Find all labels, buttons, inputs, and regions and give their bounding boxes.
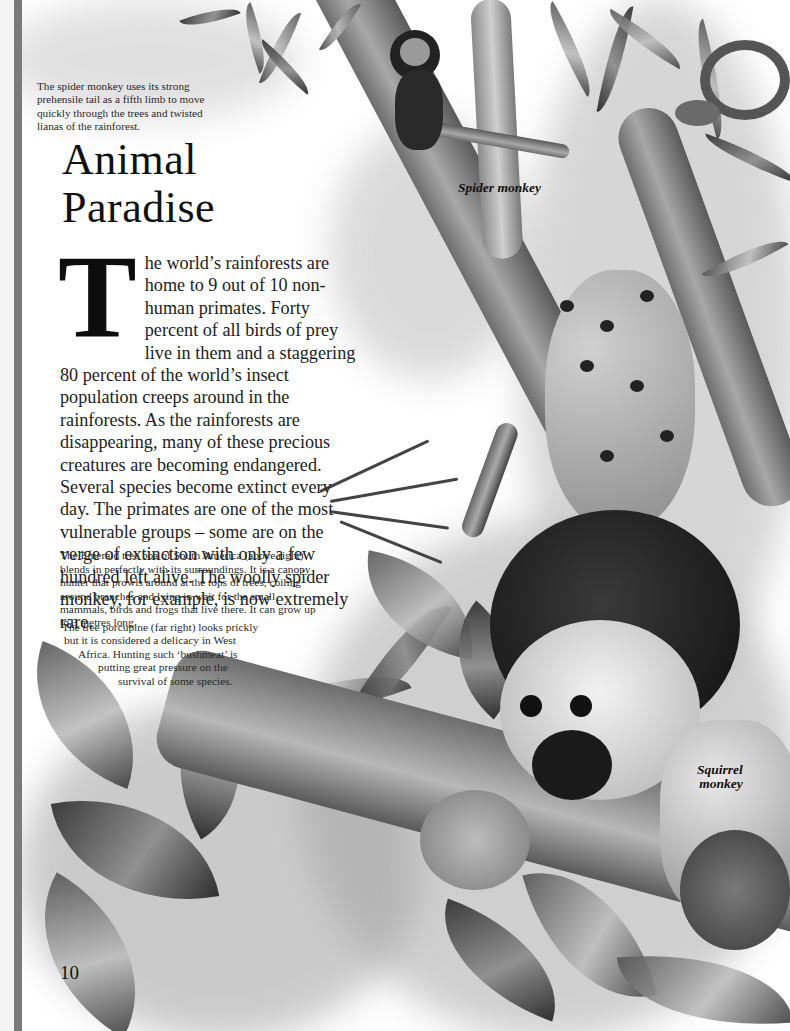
page-gutter — [0, 0, 14, 1031]
title-line-1: Animal — [62, 135, 197, 184]
squirrel-monkey-label: Squirrel monkey — [697, 763, 743, 791]
tree-porcupine-caption: The tree porcupine (far right) looks pri… — [62, 621, 282, 688]
title-line-2: Paradise — [62, 183, 215, 232]
porcupine-caption-line: The tree porcupine (far right) looks pri… — [62, 621, 282, 634]
page-title: Animal Paradise — [62, 136, 215, 232]
squirrel-label-line-2: monkey — [699, 776, 743, 791]
porcupine-caption-line: but it is considered a delicacy in West — [62, 634, 282, 647]
spider-monkey-tail-caption: The spider monkey uses its strong prehen… — [37, 80, 227, 133]
page-number: 10 — [60, 962, 79, 984]
porcupine-caption-line: Africa. Hunting such ‘bushmeat’ is — [62, 648, 282, 661]
book-page: The spider monkey uses its strong prehen… — [0, 0, 790, 1031]
squirrel-label-line-1: Squirrel — [697, 762, 743, 777]
page-spine-edge — [14, 0, 22, 1031]
drop-cap: T — [58, 254, 137, 346]
porcupine-caption-line: putting great pressure on the — [62, 661, 282, 674]
porcupine-caption-line: survival of some species. — [62, 675, 282, 688]
emerald-boa-caption: The Emerald tree boa of South America (a… — [60, 549, 320, 629]
spider-monkey-label: Spider monkey — [458, 181, 541, 195]
